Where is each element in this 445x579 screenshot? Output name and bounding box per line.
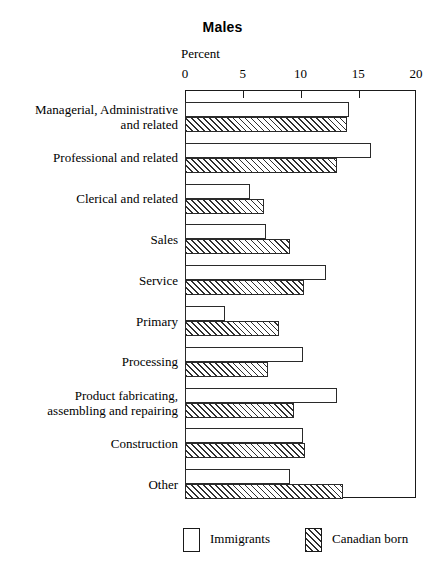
category-label: Construction: [0, 436, 178, 451]
category-label: Professional and related: [0, 150, 178, 165]
bar: [185, 239, 290, 254]
bar: [185, 428, 303, 443]
bar: [185, 388, 337, 403]
bar: [185, 321, 279, 336]
x-tick-label: 0: [165, 66, 205, 82]
category-label: Sales: [0, 232, 178, 247]
x-axis-tick-labels: 05101520: [0, 66, 445, 84]
category-label: Primary: [0, 314, 178, 329]
legend-label: Canadian born: [332, 531, 408, 547]
bar: [185, 199, 264, 214]
legend-swatch: [305, 528, 322, 552]
category-label-line: Clerical and related: [0, 191, 178, 206]
category-label-line: Sales: [0, 232, 178, 247]
legend-swatch: [183, 528, 200, 552]
bar: [185, 117, 347, 132]
category-label: Clerical and related: [0, 191, 178, 206]
category-label: Managerial, Administrativeand related: [0, 102, 178, 132]
category-label-line: Service: [0, 273, 178, 288]
category-label-line: assembling and repairing: [0, 403, 178, 418]
category-label-line: Processing: [0, 354, 178, 369]
category-label-line: Managerial, Administrative: [0, 102, 178, 117]
bar: [185, 347, 303, 362]
category-label: Service: [0, 273, 178, 288]
x-axis-label: Percent: [181, 46, 220, 62]
category-label-line: Other: [0, 477, 178, 492]
category-label-line: Construction: [0, 436, 178, 451]
x-tick-label: 15: [338, 66, 378, 82]
bar: [185, 484, 343, 499]
chart-title: Males: [0, 19, 445, 35]
y-axis-category-labels: Managerial, Administrativeand relatedPro…: [0, 90, 178, 498]
chart-legend: ImmigrantsCanadian born: [0, 528, 445, 558]
bar: [185, 184, 250, 199]
category-label-line: Product fabricating,: [0, 388, 178, 403]
bar: [185, 280, 304, 295]
category-label-line: Professional and related: [0, 150, 178, 165]
bar: [185, 143, 371, 158]
bar: [185, 158, 337, 173]
x-tick-label: 5: [223, 66, 263, 82]
category-label-line: Primary: [0, 314, 178, 329]
bar: [185, 403, 294, 418]
category-label: Product fabricating,assembling and repai…: [0, 388, 178, 418]
category-label: Other: [0, 477, 178, 492]
bar: [185, 306, 225, 321]
category-label-line: and related: [0, 117, 178, 132]
bar: [185, 443, 305, 458]
bar: [185, 469, 290, 484]
bar: [185, 265, 326, 280]
x-tick-label: 20: [396, 66, 436, 82]
x-tick-label: 10: [281, 66, 321, 82]
bars-layer: [185, 90, 416, 498]
bar: [185, 362, 268, 377]
category-label: Processing: [0, 354, 178, 369]
bar: [185, 102, 349, 117]
bar: [185, 224, 266, 239]
legend-label: Immigrants: [210, 531, 270, 547]
